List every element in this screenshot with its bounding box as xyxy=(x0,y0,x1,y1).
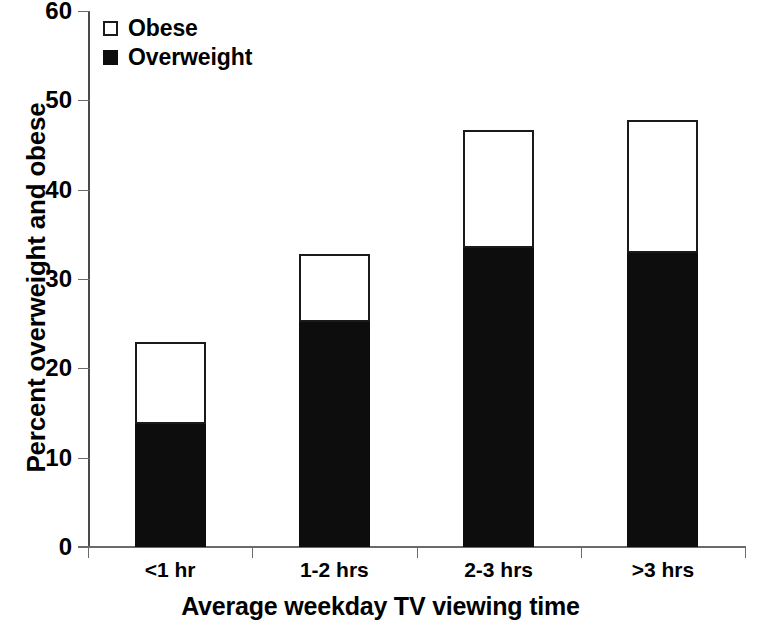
y-axis-tick-label: 10 xyxy=(2,444,72,472)
x-axis-tick xyxy=(417,547,418,558)
legend-label-obese: Obese xyxy=(128,15,198,42)
legend-label-overweight: Overweight xyxy=(128,44,252,71)
bar-segment-overweight xyxy=(463,248,534,547)
y-axis-tick xyxy=(78,458,90,459)
y-axis-tick-label: 60 xyxy=(2,0,72,25)
bar-group xyxy=(463,130,534,547)
x-axis-tick xyxy=(252,547,253,558)
y-axis-tick xyxy=(78,100,90,101)
y-axis-tick xyxy=(78,279,90,280)
x-axis-tick xyxy=(745,547,746,558)
y-axis-tick-label: 0 xyxy=(2,533,72,561)
bar-segment-overweight xyxy=(299,322,370,547)
legend-swatch-overweight-icon xyxy=(103,50,118,65)
bar-segment-obese xyxy=(463,130,534,248)
bar-segment-overweight xyxy=(135,424,206,547)
chart-figure: Percent overweight and obese 01020304050… xyxy=(0,0,761,625)
x-axis-tick-label: <1 hr xyxy=(85,558,255,582)
y-axis-tick-label: 20 xyxy=(2,354,72,382)
bar-group xyxy=(299,254,370,547)
y-axis-tick xyxy=(78,190,90,191)
y-axis-tick xyxy=(78,368,90,369)
bar-segment-overweight xyxy=(627,253,698,547)
y-axis-tick-label: 50 xyxy=(2,86,72,114)
y-axis-tick-label: 40 xyxy=(2,176,72,204)
bar-segment-obese xyxy=(299,254,370,322)
y-axis-tick xyxy=(78,11,90,12)
bar-group xyxy=(135,342,206,547)
x-axis-tick xyxy=(88,547,89,558)
legend-swatch-obese-icon xyxy=(103,21,118,36)
x-axis-tick-label: 2-3 hrs xyxy=(414,558,584,582)
legend-item-overweight: Overweight xyxy=(103,43,252,72)
x-axis-tick xyxy=(581,547,582,558)
x-axis-title: Average weekday TV viewing time xyxy=(0,592,761,621)
chart-legend: Obese Overweight xyxy=(103,14,252,72)
y-axis-tick-label: 30 xyxy=(2,265,72,293)
legend-item-obese: Obese xyxy=(103,14,252,43)
bar-segment-obese xyxy=(135,342,206,424)
bar-group xyxy=(627,120,698,547)
x-axis-tick-label: >3 hrs xyxy=(578,558,748,582)
bar-segment-obese xyxy=(627,120,698,253)
x-axis-tick-label: 1-2 hrs xyxy=(249,558,419,582)
